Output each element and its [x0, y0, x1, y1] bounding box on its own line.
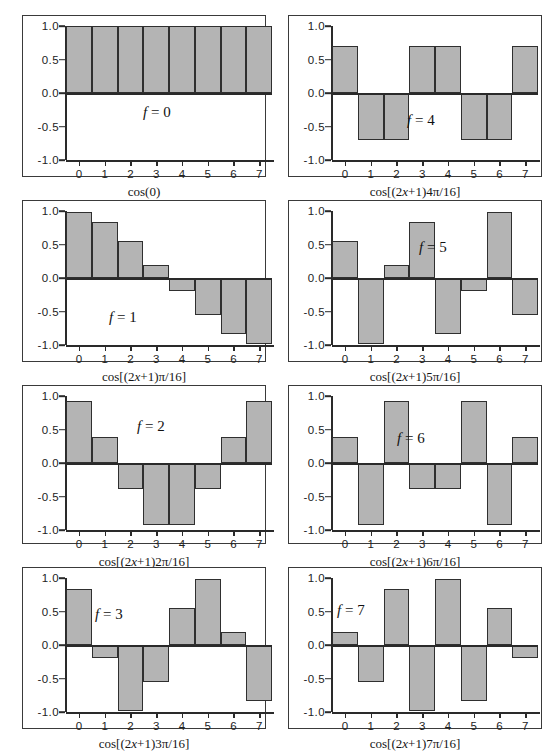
x-tick-label: 5: [470, 538, 476, 550]
zero-axis-line: [332, 278, 538, 280]
bar: [358, 463, 384, 525]
y-tick-mark: [59, 277, 65, 279]
chart-panel: 1.00.50.0-0.5-1.001234567f = 6cos[(2x+1)…: [288, 385, 542, 544]
x-tick-mark: [105, 530, 107, 536]
frequency-label: f = 5: [419, 239, 447, 256]
caption-suffix: +1)7π/16]: [408, 736, 460, 751]
x-tick-mark: [422, 160, 424, 166]
x-tick-mark: [396, 530, 398, 536]
x-tick-mark: [259, 160, 261, 166]
x-tick-mark: [208, 345, 210, 351]
y-tick-mark: [325, 92, 331, 94]
frequency-value: = 1: [113, 309, 136, 325]
plot-area: 1.00.50.0-0.5-1.001234567f = 4cos[(2x+1)…: [289, 16, 541, 176]
x-tick-mark: [371, 530, 373, 536]
x-axis-line: [66, 712, 274, 714]
y-axis-labels: 1.00.50.0-0.5-1.0: [291, 578, 325, 712]
bar: [92, 26, 118, 93]
bar: [143, 463, 169, 525]
bar: [169, 26, 195, 93]
frequency-label: f = 6: [397, 430, 425, 447]
y-tick-mark: [59, 678, 65, 680]
bar: [384, 93, 410, 140]
y-tick-mark: [59, 59, 65, 61]
zero-axis-line: [332, 463, 538, 465]
x-tick-mark: [105, 345, 107, 351]
x-tick-mark: [371, 712, 373, 718]
x-tick-mark: [182, 530, 184, 536]
y-tick-label: 1.0: [308, 20, 325, 32]
y-tick-mark: [59, 577, 65, 579]
y-tick-label: 1.0: [308, 205, 325, 217]
y-axis-labels: 1.00.50.0-0.5-1.0: [291, 396, 325, 530]
y-axis-labels: 1.00.50.0-0.5-1.0: [25, 396, 59, 530]
y-tick-mark: [325, 678, 331, 680]
plot-area: 1.00.50.0-0.5-1.001234567f = 2cos[(2x+1)…: [23, 386, 265, 543]
x-tick-mark: [79, 712, 81, 718]
y-tick-mark: [59, 210, 65, 212]
y-tick-mark: [59, 311, 65, 313]
y-tick-label: 1.0: [308, 572, 325, 584]
x-tick-label: 5: [204, 168, 210, 180]
bar: [384, 265, 410, 278]
zero-axis-line: [66, 463, 272, 465]
chart-cell-f4: 1.00.50.0-0.5-1.001234567f = 4cos[(2x+1)…: [278, 0, 556, 185]
chart-panel: 1.00.50.0-0.5-1.001234567f = 7cos[(2x+1)…: [288, 567, 542, 729]
bar: [487, 212, 513, 278]
bar: [332, 437, 358, 463]
bar: [246, 645, 272, 701]
x-tick-label: 5: [204, 720, 210, 732]
x-tick-mark: [448, 345, 450, 351]
y-tick-mark: [59, 395, 65, 397]
frequency-value: = 4: [411, 112, 434, 128]
plot-area: 1.00.50.0-0.5-1.001234567f = 1cos[(2x+1)…: [23, 201, 265, 361]
bar: [512, 437, 538, 463]
y-tick-mark: [59, 92, 65, 94]
x-tick-mark: [130, 345, 132, 351]
x-tick-mark: [130, 712, 132, 718]
x-tick-mark: [499, 712, 501, 718]
bar: [118, 463, 144, 489]
x-tick-label: 6: [496, 168, 502, 180]
chart-panel: 1.00.50.0-0.5-1.001234567f = 0cos(0): [22, 15, 266, 177]
x-tick-label: 2: [127, 720, 133, 732]
y-tick-label: 0.5: [42, 239, 59, 251]
y-tick-label: 1.0: [42, 205, 59, 217]
x-tick-label: 1: [367, 353, 373, 365]
chart-panel: 1.00.50.0-0.5-1.001234567f = 2cos[(2x+1)…: [22, 385, 266, 544]
bar: [246, 278, 272, 344]
x-tick-label: 0: [76, 720, 82, 732]
x-axis-line: [332, 712, 540, 714]
y-tick-label: 0.0: [308, 87, 325, 99]
x-tick-mark: [396, 345, 398, 351]
x-axis-line: [332, 530, 540, 532]
y-tick-mark: [325, 159, 331, 161]
plot-area: 1.00.50.0-0.5-1.001234567f = 7cos[(2x+1)…: [289, 568, 541, 728]
y-tick-label: -0.5: [38, 673, 59, 685]
x-tick-mark: [499, 530, 501, 536]
x-tick-label: 2: [393, 353, 399, 365]
x-tick-mark: [259, 712, 261, 718]
y-tick-mark: [59, 344, 65, 346]
chart-cell-f6: 1.00.50.0-0.5-1.001234567f = 6cos[(2x+1)…: [278, 370, 556, 552]
y-tick-mark: [325, 395, 331, 397]
chart-cell-f0: 1.00.50.0-0.5-1.001234567f = 0cos(0): [0, 0, 278, 185]
bar: [332, 241, 358, 278]
bar: [246, 401, 272, 463]
frequency-value: = 2: [141, 418, 164, 434]
bar: [143, 26, 169, 93]
y-axis-labels: 1.00.50.0-0.5-1.0: [25, 578, 59, 712]
x-tick-label: 4: [445, 353, 451, 365]
x-tick-label: 0: [342, 168, 348, 180]
bar: [92, 645, 118, 658]
bar: [487, 608, 513, 645]
x-tick-label: 7: [522, 538, 528, 550]
y-tick-label: 0.5: [42, 606, 59, 618]
y-tick-mark: [59, 25, 65, 27]
bar: [118, 241, 144, 278]
chart-panel: 1.00.50.0-0.5-1.001234567f = 1cos[(2x+1)…: [22, 200, 266, 362]
y-tick-label: -0.5: [304, 121, 325, 133]
x-tick-mark: [422, 712, 424, 718]
y-tick-label: -1.0: [38, 706, 59, 718]
